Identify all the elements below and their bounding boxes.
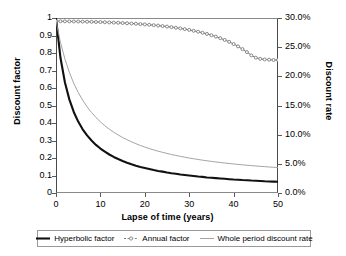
x-axis-tickmark (234, 193, 235, 197)
series-marker-annual-factor (108, 21, 111, 24)
series-marker-annual-factor (139, 23, 142, 26)
x-axis-tickmark (145, 193, 146, 197)
series-marker-annual-factor (143, 23, 146, 26)
series-marker-annual-factor (272, 59, 275, 62)
series-marker-annual-factor (228, 40, 231, 43)
y-axis-right-tick-label: 0.0% (285, 187, 319, 197)
legend-item-label: Annual factor (142, 234, 189, 243)
y-axis-left-tick-label: 1 (30, 12, 52, 22)
legend-item-annual-factor[interactable]: Annual factor (123, 234, 189, 243)
series-marker-annual-factor (214, 35, 217, 38)
series-marker-annual-factor (134, 22, 137, 25)
series-marker-annual-factor (157, 24, 160, 27)
series-marker-annual-factor (112, 21, 115, 24)
series-marker-annual-factor (63, 20, 66, 23)
x-axis-tick-label: 30 (177, 199, 201, 209)
series-marker-annual-factor (148, 23, 151, 26)
y-axis-right-tickmark (278, 135, 282, 136)
series-marker-annual-factor (126, 22, 129, 25)
series-marker-annual-factor (161, 25, 164, 28)
y-axis-left-tick-label: 0.2 (30, 152, 52, 162)
y-axis-left-tick-label: 0.5 (30, 100, 52, 110)
series-marker-annual-factor (183, 28, 186, 31)
legend-item-label: Hyperbolic factor (54, 234, 114, 243)
y-axis-right-tick-label: 15.0% (285, 100, 319, 110)
legend-marker-thin-line-icon (199, 234, 215, 243)
series-marker-annual-factor (99, 21, 102, 24)
series-marker-annual-factor (179, 27, 182, 30)
y-axis-right-tick-label: 25.0% (285, 41, 319, 51)
y-axis-left-tick-label: 0.4 (30, 117, 52, 127)
y-axis-left-tick-label: 0.7 (30, 65, 52, 75)
y-axis-right-tick-label: 30.0% (285, 12, 319, 22)
series-marker-annual-factor (77, 20, 80, 23)
x-axis-title: Lapse of time (years) (56, 212, 279, 222)
plot-series-layer (56, 18, 278, 193)
y-axis-left-tick-label: 0 (30, 187, 52, 197)
series-marker-annual-factor (174, 26, 177, 29)
series-marker-annual-factor (59, 20, 62, 23)
series-marker-annual-factor (94, 20, 97, 23)
series-marker-annual-factor (197, 30, 200, 33)
series-marker-annual-factor (201, 31, 204, 34)
series-marker-annual-factor (254, 56, 257, 59)
x-axis-tick-label: 10 (88, 199, 112, 209)
series-marker-annual-factor (90, 20, 93, 23)
legend-item-hyperbolic-factor[interactable]: Hyperbolic factor (35, 234, 114, 243)
series-marker-annual-factor (223, 38, 226, 41)
legend-marker-dotted-line-circle-icon (123, 234, 139, 243)
x-axis-tick-label: 20 (133, 199, 157, 209)
y-axis-right-tickmark (278, 164, 282, 165)
x-axis-tickmark (189, 193, 190, 197)
y-axis-left-tick-label: 0.9 (30, 30, 52, 40)
series-line-hyperbolic-factor (56, 18, 278, 182)
y-axis-left-title: Discount factor (12, 26, 22, 156)
y-axis-right-tickmark (278, 47, 282, 48)
discount-factor-chart: Discount factor Discount rate Lapse of t… (0, 0, 346, 256)
x-axis-tickmark (56, 193, 57, 197)
series-marker-annual-factor (237, 45, 240, 48)
y-axis-left-tick-label: 0.3 (30, 135, 52, 145)
x-axis-tick-label: 40 (222, 199, 246, 209)
series-marker-annual-factor (117, 21, 120, 24)
series-marker-annual-factor (205, 32, 208, 35)
series-marker-annual-factor (72, 20, 75, 23)
y-axis-right-tick-label: 20.0% (285, 70, 319, 80)
y-axis-left-tick-label: 0.8 (30, 47, 52, 57)
legend-item-label: Whole period discount rate (218, 234, 313, 243)
series-marker-annual-factor (268, 58, 271, 61)
legend-item-whole-period-discount-rate[interactable]: Whole period discount rate (199, 234, 313, 243)
y-axis-right-tickmark (278, 18, 282, 19)
x-axis-tickmark (278, 193, 279, 197)
chart-legend: Hyperbolic factorAnnual factorWhole peri… (37, 230, 311, 247)
y-axis-left-tick-label: 0.1 (30, 170, 52, 180)
series-marker-annual-factor (250, 54, 253, 57)
x-axis-tickmark (100, 193, 101, 197)
series-marker-annual-factor (81, 20, 84, 23)
series-marker-annual-factor (152, 24, 155, 27)
series-marker-annual-factor (130, 22, 133, 25)
series-marker-annual-factor (241, 48, 244, 51)
x-axis-tick-label: 50 (266, 199, 290, 209)
series-line-whole-period-discount-rate (56, 21, 278, 167)
series-marker-annual-factor (121, 22, 124, 25)
x-axis-tick-label: 0 (44, 199, 68, 209)
y-axis-right-tickmark (278, 76, 282, 77)
legend-marker-thick-line-icon (35, 234, 51, 243)
series-marker-annual-factor (166, 25, 169, 28)
series-marker-annual-factor (232, 43, 235, 46)
y-axis-right-title: Discount rate (324, 26, 334, 156)
series-marker-annual-factor (245, 51, 248, 54)
series-marker-annual-factor (192, 29, 195, 32)
series-marker-annual-factor (277, 59, 279, 62)
series-marker-annual-factor (103, 21, 106, 24)
y-axis-right-tick-label: 5.0% (285, 158, 319, 168)
series-marker-annual-factor (188, 28, 191, 31)
y-axis-right-tickmark (278, 106, 282, 107)
series-marker-annual-factor (210, 34, 213, 37)
series-marker-annual-factor (263, 58, 266, 61)
series-marker-annual-factor (259, 57, 262, 60)
y-axis-left-tick-label: 0.6 (30, 82, 52, 92)
y-axis-right-tick-label: 10.0% (285, 129, 319, 139)
series-marker-annual-factor (86, 20, 89, 23)
